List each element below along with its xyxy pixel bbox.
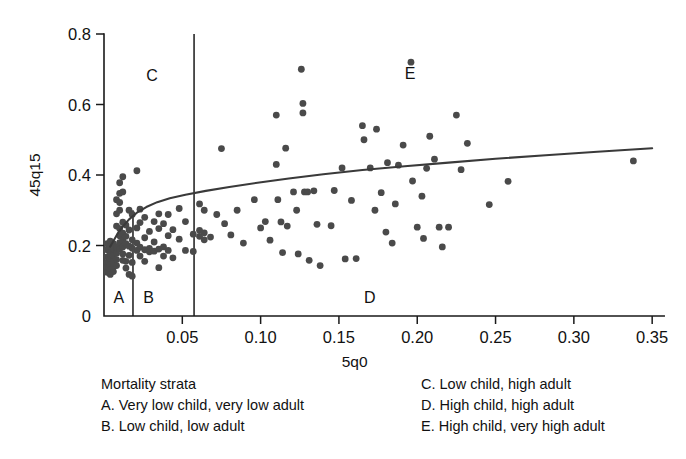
- data-point: [160, 253, 167, 260]
- legend-item-b: B. Low child, low adult: [101, 416, 304, 437]
- chart-axes: [104, 34, 664, 316]
- data-point: [278, 218, 285, 225]
- data-point: [293, 207, 300, 214]
- data-point: [331, 187, 338, 194]
- x-tick-label: 0.20: [401, 328, 433, 346]
- data-point: [304, 189, 311, 196]
- data-point: [160, 220, 167, 227]
- data-point: [378, 189, 385, 196]
- data-point: [113, 262, 120, 269]
- data-point: [218, 145, 225, 152]
- data-point: [423, 165, 430, 172]
- data-point: [123, 233, 130, 240]
- x-tick-label: 0.10: [245, 328, 277, 346]
- data-point: [155, 210, 162, 217]
- data-point: [414, 224, 421, 231]
- data-point: [137, 253, 144, 260]
- data-point: [389, 240, 396, 247]
- data-point: [176, 236, 183, 243]
- x-tick-label: 0.15: [323, 328, 355, 346]
- data-point: [290, 189, 297, 196]
- data-point: [273, 112, 280, 119]
- data-point: [453, 112, 460, 119]
- legend-column-right: C. Low child, high adult D. High child, …: [421, 374, 605, 437]
- region-label-b: B: [143, 289, 154, 306]
- data-point: [182, 247, 189, 254]
- data-point: [113, 256, 120, 263]
- data-point: [116, 199, 123, 206]
- data-point: [630, 158, 637, 165]
- legend-item-d: D. High child, high adult: [421, 395, 605, 416]
- data-point: [170, 254, 177, 261]
- data-point: [196, 201, 203, 208]
- data-point: [116, 207, 123, 214]
- region-label-c: C: [146, 67, 158, 84]
- data-point: [123, 265, 130, 272]
- data-point: [458, 166, 465, 173]
- legend-item-a: A. Very low child, very low adult: [101, 395, 304, 416]
- data-point: [373, 126, 380, 133]
- data-point: [464, 140, 471, 147]
- region-label-a: A: [113, 289, 124, 306]
- data-point: [170, 226, 177, 233]
- data-point: [439, 244, 446, 251]
- data-point: [282, 145, 289, 152]
- legend-title: Mortality strata: [101, 374, 304, 395]
- data-point: [486, 201, 493, 208]
- x-axis-title: 5q0: [342, 353, 368, 370]
- data-point: [353, 255, 360, 262]
- data-point: [310, 187, 317, 194]
- data-point: [201, 207, 208, 214]
- legend-column-left: Mortality strata A. Very low child, very…: [101, 374, 304, 437]
- data-point: [328, 222, 335, 229]
- data-point: [314, 221, 321, 228]
- data-point: [141, 258, 148, 265]
- data-point: [123, 258, 130, 265]
- data-point: [251, 196, 258, 203]
- legend-item-c: C. Low child, high adult: [421, 374, 605, 395]
- data-point: [348, 197, 355, 204]
- x-tick-label: 0.05: [166, 328, 198, 346]
- data-point: [110, 268, 117, 275]
- data-point: [409, 178, 416, 185]
- region-label-e: E: [405, 65, 416, 82]
- data-point: [129, 259, 136, 266]
- data-point: [119, 251, 126, 258]
- data-point: [300, 100, 307, 107]
- data-point: [190, 248, 197, 255]
- data-point: [165, 211, 172, 218]
- y-tick-label: 0: [82, 307, 91, 325]
- data-point: [234, 207, 241, 214]
- data-point: [116, 179, 123, 186]
- data-point: [151, 218, 158, 225]
- data-point: [383, 229, 390, 236]
- data-point: [141, 214, 148, 221]
- x-tick-label: 0.30: [558, 328, 590, 346]
- data-point: [227, 232, 234, 239]
- data-point: [339, 165, 346, 172]
- data-point: [267, 237, 274, 244]
- scatter-chart: 00.20.40.60.80.050.100.150.200.250.300.3…: [0, 0, 686, 459]
- data-point: [201, 229, 208, 236]
- data-point: [213, 211, 220, 218]
- data-point: [342, 255, 349, 262]
- data-point: [436, 224, 443, 231]
- data-point: [151, 239, 158, 246]
- data-point: [384, 159, 391, 166]
- x-tick-label: 0.25: [479, 328, 511, 346]
- data-point: [119, 189, 126, 196]
- data-point: [141, 234, 148, 241]
- data-point: [129, 273, 136, 280]
- y-axis-title: 45q15: [26, 153, 43, 196]
- legend-item-e: E. High child, very high adult: [421, 416, 605, 437]
- data-point: [137, 219, 144, 226]
- data-point: [155, 225, 162, 232]
- data-point: [133, 167, 140, 174]
- data-point: [126, 252, 133, 259]
- data-point: [221, 220, 228, 227]
- data-point: [176, 205, 183, 212]
- data-point: [262, 218, 269, 225]
- data-point: [298, 66, 305, 73]
- y-tick-label: 0.8: [68, 25, 91, 43]
- data-point: [359, 122, 366, 129]
